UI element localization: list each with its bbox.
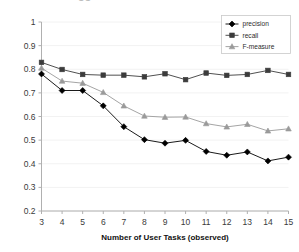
axis-titles-group: Number of User Tasks (observed) xyxy=(101,233,229,242)
data-point xyxy=(141,137,147,143)
data-point xyxy=(245,121,251,126)
legend-label: F-measure xyxy=(243,43,275,50)
data-series-group xyxy=(39,60,292,164)
y-axis-tick-label: 0.4 xyxy=(24,159,36,169)
x-axis-tick-label: 7 xyxy=(121,217,126,227)
data-point xyxy=(286,126,292,131)
data-point xyxy=(265,158,271,164)
x-axis-tick-label: 6 xyxy=(101,217,106,227)
data-point xyxy=(204,71,209,76)
series-line xyxy=(42,62,289,79)
legend-swatch-marker xyxy=(230,33,235,38)
data-point xyxy=(286,72,291,77)
data-point xyxy=(162,140,168,146)
series-recall xyxy=(39,60,291,82)
data-point xyxy=(60,67,65,72)
chart-legend: precisionrecallF-measure xyxy=(222,16,291,54)
y-axis-tick-label: 0.8 xyxy=(24,64,36,74)
y-axis-tick-label: 0.3 xyxy=(24,182,36,192)
data-point xyxy=(203,148,209,154)
data-point xyxy=(59,78,65,83)
x-axis-tick-labels: 3456789101112131415 xyxy=(39,217,293,227)
x-axis-tick-label: 8 xyxy=(142,217,147,227)
data-point xyxy=(101,73,106,78)
series-line xyxy=(42,68,289,131)
legend-item-recall: recall xyxy=(226,32,259,39)
x-axis-tick-label: 3 xyxy=(39,217,44,227)
data-point xyxy=(122,73,127,78)
x-axis-tick-label: 10 xyxy=(181,217,191,227)
data-point xyxy=(100,90,106,95)
data-point xyxy=(286,154,292,160)
y-axis-tick-labels: 0.20.30.40.50.60.70.80.91 xyxy=(24,17,36,216)
y-axis-tick-label: 0.9 xyxy=(24,41,36,51)
y-axis-tick-label: 0.7 xyxy=(24,88,36,98)
y-axis-tick-label: 0.6 xyxy=(24,112,36,122)
data-point xyxy=(39,65,45,70)
x-axis-tick-label: 11 xyxy=(202,217,211,227)
data-point xyxy=(224,73,229,78)
data-point xyxy=(142,75,147,80)
y-axis-tick-label: 0.2 xyxy=(24,206,36,216)
data-point xyxy=(142,113,148,118)
data-point xyxy=(183,77,188,82)
legend-item-precision: precision xyxy=(226,20,270,28)
data-point xyxy=(80,72,85,77)
data-point xyxy=(163,71,168,76)
data-point xyxy=(121,103,127,108)
data-point xyxy=(245,72,250,77)
data-point xyxy=(183,137,189,143)
x-axis-tick-label: 9 xyxy=(163,217,168,227)
x-axis-title: Number of User Tasks (observed) xyxy=(101,233,229,242)
x-axis-tick-label: 15 xyxy=(284,217,294,227)
y-axis-tick-label: 1 xyxy=(31,17,36,27)
data-point xyxy=(39,60,44,65)
x-axis-tick-label: 14 xyxy=(263,217,273,227)
legend-label: recall xyxy=(243,32,259,39)
chart-figure: GG 0.20.30.40.50.60.70.80.91 34567891011… xyxy=(0,0,299,252)
chart-canvas: 0.20.30.40.50.60.70.80.91 34567891011121… xyxy=(0,0,299,252)
x-axis-tick-label: 12 xyxy=(222,217,232,227)
data-point xyxy=(266,68,271,73)
y-axis-tick-label: 0.5 xyxy=(24,135,36,145)
data-point xyxy=(224,152,230,158)
legend-label: precision xyxy=(243,20,270,28)
x-axis-tick-label: 4 xyxy=(60,217,65,227)
x-axis-tick-label: 13 xyxy=(243,217,253,227)
data-point xyxy=(244,149,250,155)
x-axis-tick-label: 5 xyxy=(80,217,85,227)
